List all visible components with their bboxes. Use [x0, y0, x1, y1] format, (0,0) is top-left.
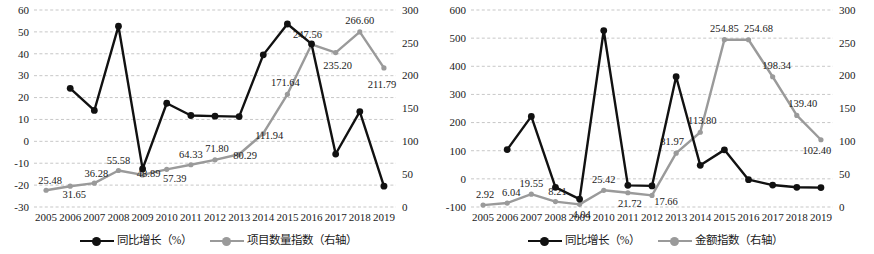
svg-text:2014: 2014	[252, 211, 275, 223]
legend-right: 同比增长（%） 金额指数（右轴）	[437, 230, 874, 252]
legend-label-growth-right: 同比增长（%）	[565, 235, 641, 247]
legend-item-growth-left[interactable]: 同比增长（%）	[80, 235, 193, 247]
svg-text:2018: 2018	[349, 211, 372, 223]
line-marker-black-icon	[528, 236, 562, 246]
svg-text:150: 150	[839, 102, 856, 114]
svg-text:-20: -20	[14, 179, 29, 191]
svg-text:211.79: 211.79	[368, 79, 397, 90]
svg-text:254.68: 254.68	[744, 23, 773, 34]
svg-text:71.80: 71.80	[205, 143, 229, 154]
svg-text:-30: -30	[14, 201, 29, 213]
svg-text:2019: 2019	[373, 211, 396, 223]
svg-text:50: 50	[18, 26, 30, 38]
svg-text:2019: 2019	[810, 211, 833, 223]
svg-text:2011: 2011	[617, 211, 639, 223]
svg-text:113.80: 113.80	[688, 115, 717, 126]
svg-text:2009: 2009	[132, 211, 155, 223]
svg-text:139.40: 139.40	[788, 98, 817, 109]
svg-text:25.42: 25.42	[592, 174, 616, 185]
svg-text:-10: -10	[14, 157, 29, 169]
project-count-index-plot: -30-20-100102030405060050100150200250300…	[0, 0, 437, 254]
svg-text:400: 400	[450, 60, 467, 72]
svg-text:254.85: 254.85	[710, 23, 739, 34]
legend-label-growth-left: 同比增长（%）	[117, 235, 193, 247]
svg-text:0: 0	[461, 173, 467, 185]
svg-text:0: 0	[24, 135, 30, 147]
svg-text:81.97: 81.97	[660, 136, 684, 147]
legend-item-growth-right[interactable]: 同比增长（%）	[528, 235, 641, 247]
svg-text:80.29: 80.29	[233, 150, 257, 161]
svg-text:57.39: 57.39	[163, 173, 187, 184]
svg-text:20: 20	[18, 91, 30, 103]
svg-text:19.55: 19.55	[520, 178, 544, 189]
svg-text:-100: -100	[446, 201, 467, 213]
svg-text:500: 500	[450, 32, 467, 44]
legend-item-index-right[interactable]: 金额指数（右轴）	[658, 235, 783, 247]
svg-text:48.89: 48.89	[137, 168, 161, 179]
svg-text:0: 0	[839, 201, 845, 213]
svg-text:2017: 2017	[762, 211, 785, 223]
line-marker-black-icon	[80, 236, 114, 246]
svg-text:150: 150	[402, 102, 419, 114]
svg-text:50: 50	[839, 168, 851, 180]
svg-text:60: 60	[18, 4, 30, 16]
svg-text:2008: 2008	[107, 211, 130, 223]
legend-left: 同比增长（%） 项目数量指数（右轴）	[0, 230, 437, 252]
dual-chart-figure: -30-20-100102030405060050100150200250300…	[0, 0, 874, 254]
svg-text:6.04: 6.04	[502, 187, 521, 198]
svg-text:300: 300	[450, 88, 467, 100]
svg-text:235.20: 235.20	[323, 60, 352, 71]
svg-text:10: 10	[18, 113, 30, 125]
line-marker-gray-icon	[658, 236, 692, 246]
svg-text:2017: 2017	[325, 211, 348, 223]
svg-text:2013: 2013	[665, 211, 688, 223]
svg-text:200: 200	[839, 69, 856, 81]
svg-text:2010: 2010	[156, 211, 179, 223]
svg-text:200: 200	[450, 116, 467, 128]
svg-text:2006: 2006	[496, 211, 519, 223]
svg-text:2007: 2007	[83, 211, 106, 223]
svg-text:200: 200	[402, 69, 419, 81]
svg-text:2016: 2016	[301, 211, 324, 223]
legend-label-index-left: 项目数量指数（右轴）	[247, 235, 357, 247]
project-count-index-chart: -30-20-100102030405060050100150200250300…	[0, 0, 437, 254]
svg-text:2005: 2005	[35, 211, 58, 223]
svg-text:2015: 2015	[713, 211, 736, 223]
svg-text:2012: 2012	[204, 211, 226, 223]
svg-text:50: 50	[402, 168, 414, 180]
svg-text:2016: 2016	[738, 211, 761, 223]
svg-text:247.56: 247.56	[293, 29, 322, 40]
svg-text:30: 30	[18, 69, 30, 81]
svg-text:31.65: 31.65	[62, 189, 86, 200]
svg-text:250: 250	[402, 37, 419, 49]
svg-text:600: 600	[450, 4, 467, 16]
svg-text:2.92: 2.92	[476, 189, 494, 200]
svg-text:2005: 2005	[472, 211, 495, 223]
svg-text:300: 300	[839, 4, 856, 16]
svg-text:100: 100	[839, 135, 856, 147]
svg-text:2015: 2015	[276, 211, 299, 223]
svg-text:2012: 2012	[641, 211, 663, 223]
svg-text:2011: 2011	[180, 211, 202, 223]
svg-text:2013: 2013	[228, 211, 251, 223]
line-marker-gray-icon	[210, 236, 244, 246]
legend-item-index-left[interactable]: 项目数量指数（右轴）	[210, 235, 357, 247]
svg-text:0: 0	[402, 201, 408, 213]
svg-text:2006: 2006	[59, 211, 82, 223]
amount-index-chart: -100010020030040050060005010015020025030…	[437, 0, 874, 254]
svg-text:55.58: 55.58	[107, 155, 131, 166]
svg-text:2010: 2010	[593, 211, 616, 223]
amount-index-plot: -100010020030040050060005010015020025030…	[437, 0, 874, 254]
svg-text:300: 300	[402, 4, 419, 16]
svg-text:2018: 2018	[786, 211, 809, 223]
svg-text:36.28: 36.28	[85, 168, 109, 179]
svg-text:25.48: 25.48	[38, 175, 62, 186]
svg-text:100: 100	[402, 135, 419, 147]
svg-text:102.40: 102.40	[802, 145, 831, 156]
svg-text:111.94: 111.94	[255, 130, 284, 141]
svg-text:198.34: 198.34	[762, 60, 792, 71]
legend-label-index-right: 金额指数（右轴）	[695, 235, 783, 247]
svg-text:8.21: 8.21	[548, 186, 566, 197]
svg-text:40: 40	[18, 48, 30, 60]
svg-text:250: 250	[839, 37, 856, 49]
